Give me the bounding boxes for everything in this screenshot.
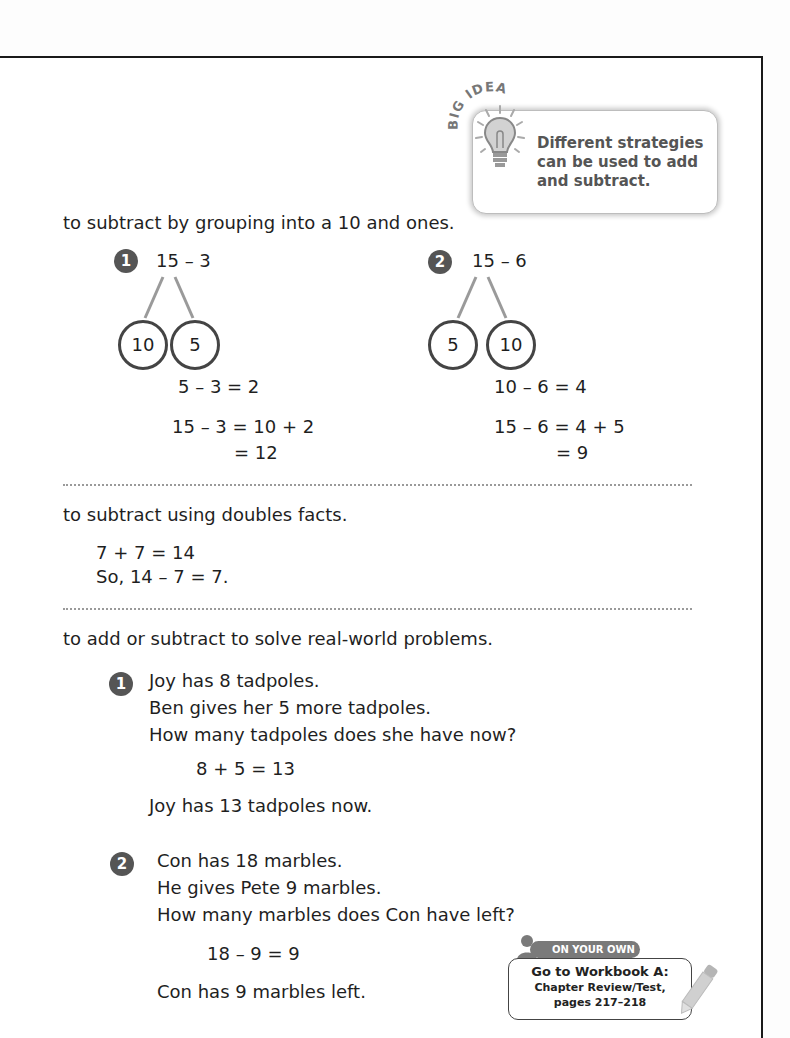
pencil-icon xyxy=(672,960,722,1022)
workbook-line-2: Chapter Review/Test, xyxy=(509,980,691,995)
workbook-line-3: pages 217–218 xyxy=(509,995,691,1010)
problem-2-line: How many marbles does Con have left? xyxy=(157,904,515,926)
bond-circle-left: 10 xyxy=(118,320,168,370)
problem-1-line: How many tadpoles does she have now? xyxy=(149,724,516,746)
example-2-step1: 10 – 6 = 4 xyxy=(494,376,587,398)
example-2-badge: 2 xyxy=(428,250,452,274)
example-1-expression: 15 – 3 xyxy=(156,250,211,272)
problem-1-badge: 1 xyxy=(109,672,133,696)
workbook-reference[interactable]: Go to Workbook A: Chapter Review/Test, p… xyxy=(508,958,692,1020)
bond-circle-right: 5 xyxy=(170,320,220,370)
bond-circle-left: 5 xyxy=(428,320,478,370)
bond-circle-right: 10 xyxy=(486,320,536,370)
problem-1-line: Ben gives her 5 more tadpoles. xyxy=(149,697,431,719)
problem-1-line: Joy has 8 tadpoles. xyxy=(149,670,320,692)
example-1-step1: 5 – 3 = 2 xyxy=(178,376,259,398)
example-1-step2: 15 – 3 = 10 + 2 xyxy=(172,416,314,438)
section2-heading: to subtract using doubles facts. xyxy=(63,504,347,526)
section-divider xyxy=(63,484,692,486)
problem-1-equation: 8 + 5 = 13 xyxy=(196,758,295,780)
section3-heading: to add or subtract to solve real-world p… xyxy=(63,628,493,650)
problem-2-badge: 2 xyxy=(110,852,134,876)
example-2-step2: 15 – 6 = 4 + 5 xyxy=(494,416,625,438)
workbook-line-1: Go to Workbook A: xyxy=(509,964,691,980)
on-your-own-tab: ON YOUR OWN xyxy=(530,941,640,958)
doubles-line-2: So, 14 – 7 = 7. xyxy=(96,566,228,588)
problem-2-line: Con has 18 marbles. xyxy=(157,850,342,872)
problem-1-answer: Joy has 13 tadpoles now. xyxy=(149,795,372,817)
example-1-step3: = 12 xyxy=(234,442,278,464)
example-1-badge: 1 xyxy=(114,249,138,273)
doubles-line-1: 7 + 7 = 14 xyxy=(96,542,195,564)
problem-2-answer: Con has 9 marbles left. xyxy=(157,981,366,1003)
example-2-expression: 15 – 6 xyxy=(472,250,527,272)
example-2-step3: = 9 xyxy=(556,442,588,464)
problem-2-line: He gives Pete 9 marbles. xyxy=(157,877,381,899)
problem-2-equation: 18 – 9 = 9 xyxy=(207,943,300,965)
section-divider xyxy=(63,608,692,610)
